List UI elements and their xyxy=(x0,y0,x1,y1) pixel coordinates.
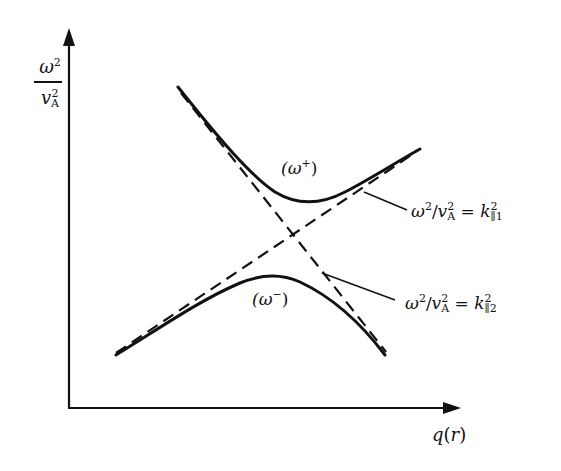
upper-branch-label: (ω+) xyxy=(281,157,317,178)
axes xyxy=(63,28,461,414)
upper-branch-omega-plus xyxy=(178,87,420,202)
y-axis-label-denominator: v2A xyxy=(30,87,70,109)
diagram-canvas xyxy=(0,0,561,471)
lower-branch-omega-minus xyxy=(116,276,385,355)
asymptote-k2-label: ω2/v2A = k2∥2 xyxy=(405,292,497,314)
asymptote-k2-dashed xyxy=(181,93,386,352)
y-axis-label-numerator: ω2 xyxy=(30,52,70,78)
x-axis-label: q(r) xyxy=(432,424,466,445)
lower-branch-label: (ω−) xyxy=(252,288,288,309)
x-axis-arrow-icon xyxy=(443,402,461,414)
y-axis-arrow-icon xyxy=(63,28,75,46)
asymptote-lines xyxy=(116,93,416,353)
y-axis-label: ω2 v2A xyxy=(30,52,70,109)
leader-lines xyxy=(322,192,407,300)
leader-line-k1 xyxy=(364,192,407,210)
asymptote-k1-dashed xyxy=(116,152,416,353)
leader-line-k2 xyxy=(322,273,395,300)
fraction-bar xyxy=(34,81,62,83)
asymptote-k1-label: ω2/v2A = k2∥1 xyxy=(411,200,503,222)
dispersion-branches xyxy=(116,87,420,355)
